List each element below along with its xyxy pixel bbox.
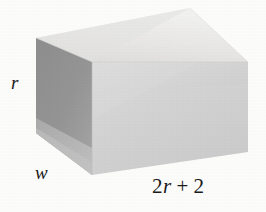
label-width-expression: 2r + 2: [152, 176, 204, 197]
label-width-constant: 2: [193, 174, 204, 198]
label-width-variable: r: [163, 174, 172, 198]
front-face: [92, 62, 248, 175]
label-width-coefficient: 2: [152, 174, 163, 198]
label-width-operator: +: [176, 174, 188, 198]
label-height-r-text: r: [11, 72, 18, 93]
label-depth-w: w: [35, 163, 48, 182]
label-height-r: r: [11, 73, 18, 92]
label-depth-w-text: w: [35, 162, 48, 183]
prism-figure: r w 2r + 2: [0, 0, 266, 212]
